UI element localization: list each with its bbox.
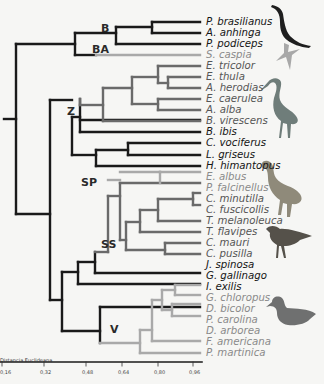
leaf-label: A. herodias (206, 82, 264, 93)
tern-silhouette (276, 43, 300, 70)
axis-tick-label: 0,80 (154, 369, 165, 375)
axis-tick-label: 0,96 (189, 369, 200, 375)
dendrogram (0, 0, 324, 384)
group-label-ba: BA (92, 43, 109, 56)
leaf-label: P. brasilianus (206, 16, 272, 27)
leaf-label: T. melanoleuca (206, 215, 283, 226)
group-label-b: B (101, 22, 109, 35)
group-label-z: Z (67, 105, 75, 118)
leaf-label: E. thula (206, 71, 245, 82)
leaf-label: G. gallinago (206, 270, 267, 281)
leaf-label: A. anhinga (206, 27, 261, 38)
leaf-label: P. carolina (206, 314, 258, 325)
axis-tick-label: 0,48 (82, 369, 93, 375)
leaf-label: D. arborea (206, 325, 260, 336)
leaf-label: B. virescens (206, 115, 268, 126)
leaf-label: C. fuscicollis (206, 204, 269, 215)
axis-tick-label: 0,16 (0, 369, 11, 375)
leaf-label: C. pusilla (206, 248, 253, 259)
leaf-label: G. chloropus (206, 292, 270, 303)
z-clade-branches (80, 66, 200, 121)
leaf-label: B. ibis (206, 126, 237, 137)
plover-silhouette (266, 226, 312, 258)
axis-tick-label: 0,32 (40, 369, 51, 375)
group-label-v: V (110, 323, 119, 336)
duck-silhouette (266, 297, 316, 326)
heron-silhouette (259, 78, 298, 138)
leaf-label: C. mauri (206, 237, 249, 248)
leaf-label: I. exilis (206, 281, 242, 292)
leaf-label: T. flavipes (206, 226, 257, 237)
leaf-label: P. martinica (206, 347, 266, 358)
leaf-label: E. tricolor (206, 60, 255, 71)
leaf-label: S. caspia (206, 49, 252, 60)
axis-tick-label: 0,64 (118, 369, 129, 375)
leaf-label: E. albus (206, 171, 246, 182)
leaf-label: E. caerulea (206, 93, 263, 104)
leaf-label: J. spinosa (206, 259, 254, 270)
axis-title: Distancia Euclideana (0, 357, 52, 363)
leaf-label: P. podiceps (206, 38, 263, 49)
anhinga-silhouette (271, 5, 311, 48)
leaf-label: F. americana (206, 336, 271, 347)
leaf-label: A. alba (206, 104, 241, 115)
group-label-ss: SS (101, 238, 116, 251)
leaf-label: H. himantopus (206, 160, 281, 171)
leaf-label: P. falcinellus (206, 182, 268, 193)
leaf-label: C. vociferus (206, 137, 266, 148)
leaf-label: L. griseus (206, 149, 255, 160)
group-label-sp: SP (81, 176, 97, 189)
leaf-label: C. minutilla (206, 193, 264, 204)
leaf-label: D. bicolor (206, 303, 255, 314)
